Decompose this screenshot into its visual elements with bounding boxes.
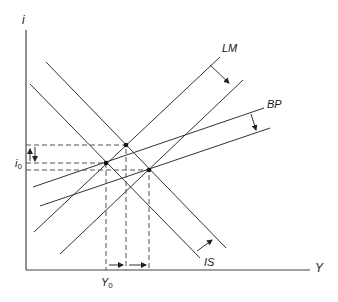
- guide-point-a: [26, 163, 106, 270]
- islm-bp-diagram: i Y IS LM BP i0 Y0: [0, 0, 338, 302]
- is-curve-shifted: [46, 62, 226, 248]
- lm-label: LM: [222, 42, 238, 54]
- is-label: IS: [204, 256, 215, 268]
- bp-label: BP: [267, 98, 282, 110]
- is-curve-initial: [30, 84, 200, 258]
- equilibrium-point-a: [104, 161, 109, 166]
- lm-shift-arrow: [210, 65, 229, 83]
- is-shift-arrow: [197, 240, 212, 251]
- y0-label: Y0: [101, 276, 113, 290]
- bp-shift-arrow: [251, 114, 256, 130]
- equilibrium-point-b: [124, 143, 129, 148]
- x-axis-label: Y: [315, 261, 324, 275]
- guide-point-b: [26, 145, 126, 270]
- guide-point-c: [26, 170, 149, 270]
- i0-label: i0: [15, 157, 22, 171]
- bp-curve-shifted: [40, 128, 270, 206]
- lm-curve-shifted: [60, 80, 243, 254]
- y-axis-label: i: [22, 13, 25, 27]
- equilibrium-point-c: [147, 168, 152, 173]
